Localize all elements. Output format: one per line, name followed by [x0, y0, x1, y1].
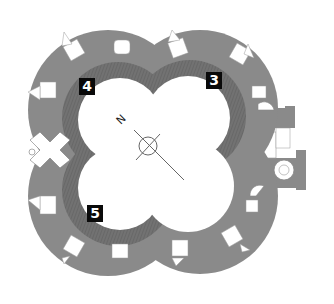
area-label-5: 5: [87, 205, 103, 222]
castle-floor-plan: [0, 0, 334, 304]
area-label-3: 3: [206, 72, 222, 89]
area-label-4: 4: [79, 78, 95, 95]
